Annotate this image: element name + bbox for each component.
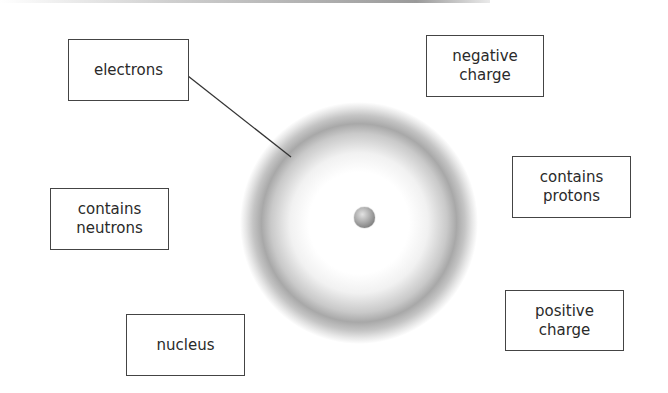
- label-positive-charge[interactable]: positive charge: [505, 290, 624, 351]
- label-negative-charge-text: negative charge: [452, 47, 518, 85]
- label-nucleus[interactable]: nucleus: [126, 314, 245, 376]
- label-negative-charge[interactable]: negative charge: [426, 35, 544, 97]
- label-contains-neutrons-text: contains neutrons: [76, 200, 142, 238]
- label-contains-protons[interactable]: contains protons: [512, 156, 631, 218]
- label-electrons-text: electrons: [94, 61, 163, 80]
- label-electrons[interactable]: electrons: [68, 39, 189, 101]
- label-positive-charge-text: positive charge: [535, 302, 594, 340]
- label-nucleus-text: nucleus: [157, 336, 215, 355]
- label-contains-neutrons[interactable]: contains neutrons: [50, 188, 169, 250]
- label-contains-protons-text: contains protons: [540, 168, 604, 206]
